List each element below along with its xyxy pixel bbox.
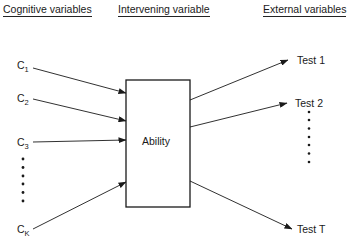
header-intervening-variable: Intervening variable <box>118 3 210 17</box>
input-label-subscript: 1 <box>25 65 29 74</box>
header-external-variables: External variables <box>263 3 346 17</box>
left-ellipsis-dots <box>22 158 25 203</box>
right-ellipsis-dots <box>308 111 311 164</box>
input-label-subscript: 3 <box>25 142 29 151</box>
input-label-subscript: K <box>25 229 30 238</box>
arrow-c3-to-ability <box>33 140 126 142</box>
output-label-test2: Test 2 <box>295 97 323 109</box>
input-label-c3: C3 <box>17 136 29 148</box>
input-label-c2: C2 <box>17 92 29 104</box>
arrow-c1-to-ability <box>33 68 126 93</box>
arrow-ck-to-ability <box>33 182 126 229</box>
input-label-base: C <box>17 136 25 148</box>
input-label-base: C <box>17 92 25 104</box>
diagram-canvas: Cognitive variables Intervening variable… <box>0 0 347 243</box>
arrow-ability-to-test2 <box>190 103 287 127</box>
arrow-c2-to-ability <box>33 99 126 121</box>
input-label-c1: C1 <box>17 59 29 71</box>
diagram-lines <box>0 0 347 243</box>
ability-label: Ability <box>142 135 170 147</box>
input-label-base: C <box>17 59 25 71</box>
arrow-ability-to-test1 <box>190 60 288 100</box>
arrow-ability-to-testT <box>190 181 292 229</box>
header-cognitive-variables: Cognitive variables <box>3 3 92 17</box>
input-label-subscript: 2 <box>25 98 29 107</box>
output-label-testT: Test T <box>297 223 325 235</box>
output-label-test1: Test 1 <box>297 54 325 66</box>
input-label-base: C <box>17 223 25 235</box>
input-label-ck: CK <box>17 223 30 235</box>
